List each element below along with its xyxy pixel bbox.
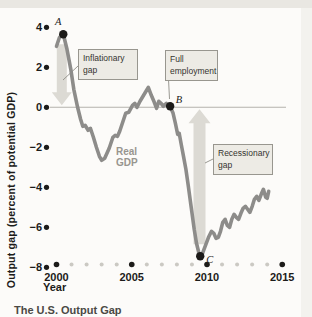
y-tick-label: −2 <box>29 141 42 153</box>
y-axis-title: Output gap (percent of potential GDP) <box>5 74 17 306</box>
full-employment-callout: Full employment <box>165 50 218 81</box>
inflationary-gap-callout: Inflationary gap <box>78 49 138 80</box>
x-minor-tick-dot <box>115 263 119 267</box>
full-employment-leader <box>169 79 170 99</box>
x-minor-tick-dot <box>85 263 89 267</box>
x-minor-tick-dot <box>70 263 74 267</box>
y-tick-label: −4 <box>29 181 42 193</box>
y-tick-dot <box>44 25 49 30</box>
x-minor-tick-dot <box>160 263 164 267</box>
x-minor-tick-dot <box>100 263 104 267</box>
x-axis-title: Year <box>43 281 66 293</box>
y-tick-label: −8 <box>29 261 42 273</box>
y-tick-dot <box>44 265 49 270</box>
y-tick-label: −6 <box>29 221 42 233</box>
x-minor-tick-dot <box>145 263 149 267</box>
point-b-label: B <box>176 94 183 105</box>
point-a-label: A <box>54 16 62 27</box>
y-tick-dot <box>44 65 49 70</box>
point-a-dot <box>59 30 67 38</box>
x-minor-tick-dot <box>265 263 269 267</box>
y-tick-dot <box>44 225 49 230</box>
point-c-dot <box>196 252 204 260</box>
x-minor-tick-dot <box>235 263 239 267</box>
recessionary-gap-callout: Recessionary gap <box>213 144 273 175</box>
point-c-label: C <box>206 254 214 265</box>
x-minor-tick-dot <box>250 263 254 267</box>
y-tick-dot <box>44 105 49 110</box>
output-gap-figure: 420−2−4−6−82000200520102015ABC Output ga… <box>0 0 312 317</box>
x-minor-tick-dot <box>190 263 194 267</box>
y-tick-label: 4 <box>36 21 43 33</box>
x-tick-label: 2010 <box>195 271 219 283</box>
y-tick-dot <box>44 145 49 150</box>
real-gdp-curve-label: Real GDP <box>116 146 146 168</box>
point-b-dot <box>166 102 174 110</box>
figure-caption: The U.S. Output Gap <box>14 304 122 316</box>
x-major-tick-dot <box>279 262 285 268</box>
x-major-tick-dot <box>129 262 135 268</box>
x-major-tick-dot <box>54 262 60 268</box>
y-tick-label: 2 <box>36 61 42 73</box>
x-tick-label: 2005 <box>120 271 144 283</box>
y-tick-dot <box>44 185 49 190</box>
recessionary-gap-leader <box>205 159 213 163</box>
x-minor-tick-dot <box>175 263 179 267</box>
y-tick-label: 0 <box>36 101 42 113</box>
x-tick-label: 2015 <box>270 271 294 283</box>
x-minor-tick-dot <box>220 263 224 267</box>
